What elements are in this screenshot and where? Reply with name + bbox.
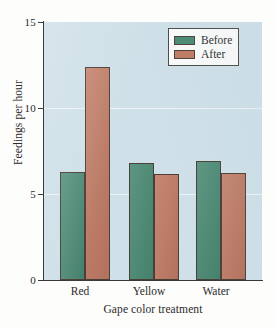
bar-yellow-before (129, 163, 154, 280)
y-tick-mark-10 (38, 108, 44, 109)
x-axis-title: Gape color treatment (44, 303, 262, 316)
legend-label-before: Before (201, 34, 232, 46)
y-axis-line (43, 21, 44, 281)
bar-yellow-after (154, 174, 179, 280)
y-tick-mark-15 (38, 22, 44, 23)
x-tick-label-red: Red (45, 285, 115, 298)
legend-entry-before: Before (174, 33, 232, 47)
y-tick-label-15: 15 (6, 17, 36, 28)
legend-swatch-icon-before (174, 36, 195, 45)
plot-area: Before After (44, 22, 262, 280)
bar-red-before (60, 172, 85, 280)
x-tick-label-water: Water (181, 285, 251, 298)
figure-canvas: Before After 15 10 5 0 Red Yellow Water … (0, 0, 276, 328)
legend-swatch-icon-after (174, 50, 195, 59)
x-tick-label-yellow: Yellow (114, 285, 184, 298)
legend-entry-after: After (174, 47, 232, 61)
bar-red-after (85, 67, 110, 280)
legend: Before After (168, 28, 239, 66)
y-tick-mark-0 (38, 280, 44, 281)
y-tick-label-0: 0 (6, 275, 36, 286)
bar-water-before (196, 161, 221, 280)
bar-water-after (221, 173, 246, 280)
gridline-10 (44, 108, 262, 109)
y-axis-title: Feedings per hour (12, 33, 25, 213)
y-tick-mark-5 (38, 194, 44, 195)
x-axis-line (43, 280, 263, 281)
legend-label-after: After (201, 48, 225, 60)
